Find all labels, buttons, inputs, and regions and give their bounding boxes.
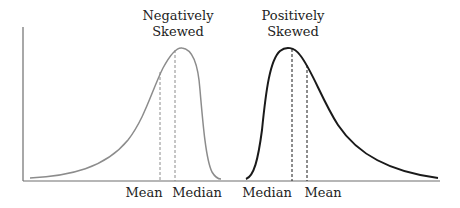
skewness-diagram: Negatively Skewed Positively Skewed Mean… [0, 0, 460, 208]
negative-skew-title-line2: Skewed [152, 25, 204, 39]
positive-skew-title-line2: Skewed [267, 25, 319, 39]
negative-median-label: Median [172, 186, 222, 200]
negative-skew-curve [30, 48, 221, 179]
positive-mean-label: Mean [304, 186, 341, 200]
negative-skew-title-line1: Negatively [142, 9, 213, 23]
positive-skew-curve [246, 48, 438, 179]
negative-mean-label: Mean [125, 186, 162, 200]
positive-skew-title-line1: Positively [262, 9, 325, 23]
diagram-canvas [0, 0, 460, 208]
positive-median-label: Median [242, 186, 292, 200]
